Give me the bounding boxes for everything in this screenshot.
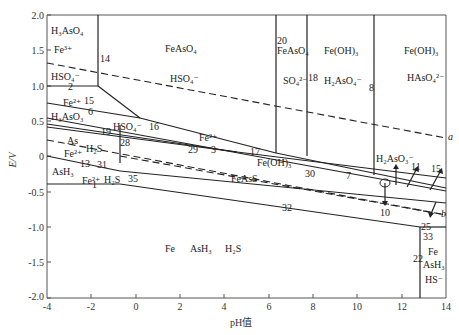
label-ash3: AsH₃: [52, 166, 74, 177]
x-tick-label: 6: [267, 301, 272, 312]
x-tick-label: 0: [134, 301, 139, 312]
label-haso4: HAsO₄²⁻: [407, 72, 444, 83]
y-axis-label: E/V: [7, 151, 18, 169]
y-tick-label: -0.5: [28, 187, 44, 198]
label-h2aso4: H₂AsO₄⁻: [324, 75, 362, 86]
label-ash3-2: AsH₃: [190, 243, 212, 254]
y-tick-label: -1.0: [28, 222, 44, 233]
label-h2s-2: H₂S: [104, 174, 120, 185]
y-tick-label: 2.0: [32, 10, 45, 21]
num-1: 1: [92, 179, 97, 190]
num-28: 28: [120, 137, 130, 148]
label-fe: Fe: [165, 243, 176, 254]
num-16: 16: [149, 121, 159, 132]
eh-ph-diagram: 2.0 1.5 1.0 0.5 0 -0.5 -1.0 -1.5 -2.0 -4…: [0, 0, 459, 335]
num-20: 20: [277, 35, 287, 46]
num-18: 18: [308, 72, 318, 83]
num-30: 30: [305, 168, 315, 179]
x-tick-label: 4: [222, 301, 227, 312]
line-numbers: 14 2 15 6 19 16 28 29 3 17 31 13 35 1 20…: [68, 35, 441, 264]
num-11: 11: [411, 161, 421, 172]
y-tick-label: 1.0: [32, 81, 45, 92]
label-feaso4: FeAsO₄: [165, 43, 197, 54]
y-tick-label: -1.5: [28, 257, 44, 268]
label-feoh3-3: Fe(OH)₃: [257, 157, 292, 169]
num-14: 14: [100, 53, 110, 64]
label-feoh3: Fe(OH)₃: [324, 45, 359, 57]
label-ash3-3: AsH₃: [423, 259, 445, 270]
num-29: 29: [188, 144, 198, 155]
label-hso4-3: HSO₄⁻: [113, 121, 142, 132]
num-7: 7: [346, 170, 351, 181]
x-tick-label: 10: [352, 301, 362, 312]
x-tick-label: -2: [87, 301, 95, 312]
label-as: As: [67, 135, 78, 146]
label-fe-2: Fe: [428, 246, 439, 257]
num-17: 17: [250, 146, 260, 157]
label-h2s-3: H₂S: [225, 243, 241, 254]
label-h3aso4: H₃AsO₄: [51, 25, 84, 36]
num-35: 35: [128, 173, 138, 184]
y-tick-label: -2.0: [28, 291, 44, 302]
num-8: 8: [369, 82, 374, 93]
num-15: 15: [84, 95, 94, 106]
label-b: b: [441, 208, 446, 219]
label-fe2: Fe²⁺: [63, 97, 81, 108]
num-31: 31: [97, 159, 107, 170]
num-15b: 15: [431, 163, 441, 174]
x-axis-label: pH值: [230, 316, 252, 328]
y-tick-label: 0.5: [32, 116, 45, 127]
num-22: 22: [413, 253, 423, 264]
label-fe3: Fe³⁺: [54, 44, 72, 55]
num-3: 3: [211, 144, 216, 155]
label-fe2-3: Fe²⁺: [199, 132, 217, 143]
label-h2s: H₂S: [86, 143, 102, 154]
label-hs: HS⁻: [425, 274, 443, 285]
label-a: a: [448, 131, 453, 142]
x-tick-label: 8: [311, 301, 316, 312]
label-so4: SO₄²⁻: [283, 75, 308, 86]
num-33: 33: [423, 231, 433, 242]
label-feass: FeAsS: [231, 173, 258, 184]
y-tick-label: 1.5: [32, 45, 45, 56]
num-19: 19: [101, 126, 111, 137]
label-h3aso3: H₃AsO₃: [51, 111, 84, 122]
label-hso4-2: HSO₄⁻: [170, 73, 199, 84]
num-32: 32: [282, 202, 292, 213]
num-13: 13: [80, 158, 90, 169]
x-tick-label: 12: [397, 301, 407, 312]
num-2: 2: [68, 81, 73, 92]
x-tick-label: 2: [178, 301, 183, 312]
num-10: 10: [380, 207, 390, 218]
x-tick-label: -4: [43, 301, 51, 312]
x-tick-label: 14: [441, 301, 451, 312]
label-h2aso3: H₂AsO₃⁻: [376, 153, 414, 164]
y-tick-label: 0: [39, 151, 44, 162]
label-hso4: HSO₄⁻: [51, 71, 80, 82]
num-6: 6: [88, 106, 93, 117]
label-feaso4-2: FeAsO₄: [277, 45, 309, 56]
label-feoh3-2: Fe(OH)₃: [404, 45, 439, 57]
